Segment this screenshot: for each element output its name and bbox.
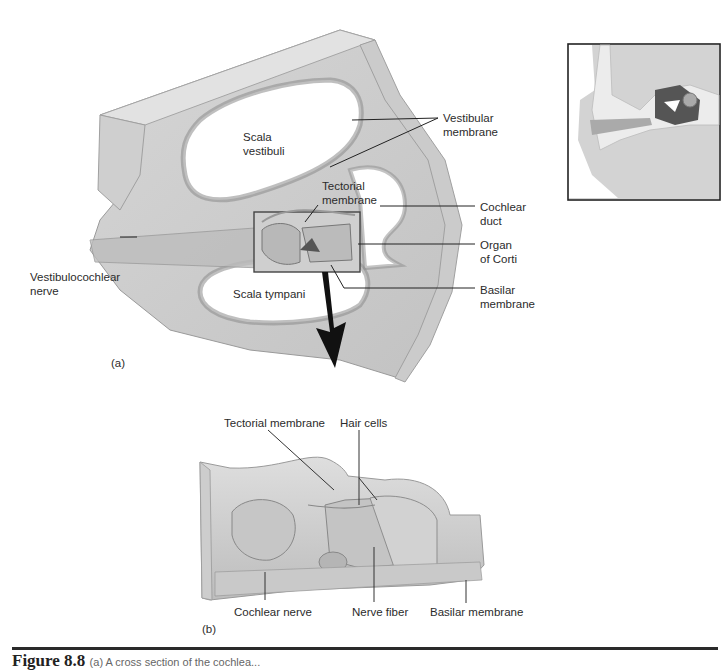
label-cochlear-nerve: Cochlear nerve <box>234 605 312 619</box>
label-tectorial-membrane-b: Tectorial membrane <box>224 416 325 430</box>
label-line: of Corti <box>480 252 517 266</box>
label-line: membrane <box>480 297 535 311</box>
label-line: Vestibular <box>443 111 498 125</box>
label-line: nerve <box>30 284 120 298</box>
label-basilar-membrane-b: Basilar membrane <box>430 605 523 619</box>
figure-caption: Figure 8.8 (a) A cross section of the co… <box>12 652 260 671</box>
label-line: membrane <box>443 125 498 139</box>
label-organ-of-corti: Organ of Corti <box>480 238 517 266</box>
label-nerve-fiber: Nerve fiber <box>352 605 408 619</box>
label-tectorial-membrane-a: Tectorial membrane <box>322 179 377 207</box>
label-line: Vestibulocochlear <box>30 270 120 284</box>
label-cochlear-duct: Cochlear duct <box>480 200 526 228</box>
label-line: Basilar <box>480 283 535 297</box>
caption-lead: Figure 8.8 <box>12 651 85 670</box>
label-basilar-membrane-a: Basilar membrane <box>480 283 535 311</box>
label-line: Cochlear <box>480 200 526 214</box>
panel-b-tag: (b) <box>202 622 216 636</box>
label-scala-tympani: Scala tympani <box>233 287 305 301</box>
label-line: duct <box>480 214 526 228</box>
panel-a-tag: (a) <box>111 356 125 370</box>
label-scala-vestibuli: Scala vestibuli <box>243 130 285 158</box>
label-line: Tectorial <box>322 179 377 193</box>
caption-text: (a) A cross section of the cochlea... <box>90 656 261 668</box>
label-line: vestibuli <box>243 144 285 158</box>
label-line: membrane <box>322 193 377 207</box>
label-hair-cells: Hair cells <box>340 416 387 430</box>
label-line: Organ <box>480 238 517 252</box>
label-line: Scala <box>243 130 285 144</box>
label-vestibular-membrane: Vestibular membrane <box>443 111 498 139</box>
label-vestibulocochlear-nerve: Vestibulocochlear nerve <box>30 270 120 298</box>
caption-rule <box>12 647 718 650</box>
